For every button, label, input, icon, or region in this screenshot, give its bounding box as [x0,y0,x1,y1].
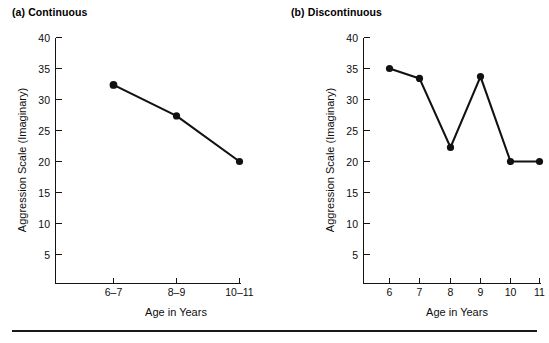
chart-a-point-1 [173,112,180,119]
chart-b-ytick-20: 20 [346,156,358,168]
chart-a-plot: 40 35 30 25 20 15 10 5 6–7 8–9 10–11 [0,0,274,320]
chart-b-xtick-3: 9 [478,286,484,298]
chart-b-ytick-40: 40 [346,32,358,44]
chart-a-y-axis-title: Aggression Scale (Imaginary) [16,88,28,232]
chart-b-point-5 [536,158,543,165]
chart-b-ytick-5: 5 [352,249,358,261]
chart-a-y-tick-labels: 40 35 30 25 20 15 10 5 [38,32,50,261]
chart-a-point-0 [110,81,118,89]
panel-discontinuous: (b) Discontinuous 40 35 30 [275,0,549,320]
chart-b-y-ticks [364,38,370,255]
chart-b-ytick-15: 15 [346,187,358,199]
figure-container: (a) Continuous 40 35 30 2 [0,0,549,343]
chart-b-point-4 [507,158,514,165]
chart-a-series-line [114,85,240,162]
chart-a-xtick-2: 10–11 [225,286,254,298]
chart-a-ytick-10: 10 [38,218,50,230]
chart-a-x-ticks [114,278,240,284]
chart-b-xtick-5: 11 [534,286,545,298]
chart-a-ytick-30: 30 [38,94,50,106]
chart-b-xtick-1: 7 [417,286,423,298]
chart-b-xtick-4: 10 [505,286,517,298]
chart-b-x-ticks [390,278,540,284]
chart-b-x-tick-labels: 6 7 8 9 10 11 [387,286,546,298]
chart-b-point-2 [447,144,454,151]
chart-a-ytick-40: 40 [38,32,50,44]
chart-a-ytick-5: 5 [44,249,50,261]
chart-b-ytick-10: 10 [346,218,358,230]
bottom-rule [12,330,537,332]
chart-b-point-3 [477,73,484,80]
chart-a-ytick-25: 25 [38,125,50,137]
chart-b-xtick-2: 8 [448,286,454,298]
chart-a-xtick-1: 8–9 [168,286,186,298]
chart-a-xtick-0: 6–7 [105,286,123,298]
chart-a-point-2 [236,158,243,165]
chart-a-ytick-35: 35 [38,63,50,75]
chart-b-ytick-25: 25 [346,125,358,137]
chart-b-y-tick-labels: 40 35 30 25 20 15 10 5 [346,32,358,261]
chart-b-ytick-35: 35 [346,63,358,75]
chart-b-xtick-0: 6 [387,286,393,298]
chart-b-series-line [390,69,540,162]
chart-a-ytick-15: 15 [38,187,50,199]
chart-a-y-ticks [56,38,62,255]
chart-a-ytick-20: 20 [38,156,50,168]
panel-continuous: (a) Continuous 40 35 30 2 [0,0,274,320]
chart-b-point-0 [386,65,393,72]
chart-b-ytick-30: 30 [346,94,358,106]
chart-a-x-axis-title: Age in Years [145,306,207,318]
chart-b-y-axis-title: Aggression Scale (Imaginary) [324,88,336,232]
chart-a-x-tick-labels: 6–7 8–9 10–11 [105,286,254,298]
chart-b-point-1 [416,75,423,82]
chart-b-x-axis-title: Age in Years [426,306,488,318]
chart-b-plot: 40 35 30 25 20 15 10 5 6 7 [275,0,549,320]
